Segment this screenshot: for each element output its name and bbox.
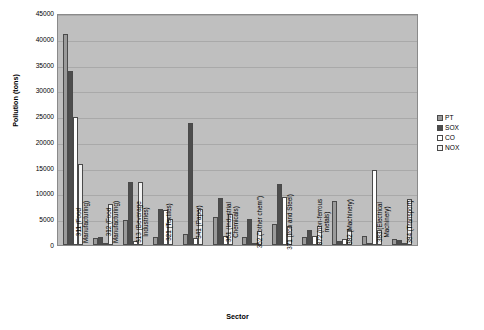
- bar-pt[interactable]: [332, 201, 337, 245]
- x-axis-tick-label: 383 (Electrical Machinery): [358, 248, 388, 306]
- y-axis-tick-0: 0: [22, 243, 54, 250]
- bar-sox[interactable]: [247, 219, 252, 245]
- legend-swatch-icon: [437, 125, 443, 131]
- legend-label: NOX: [445, 145, 459, 152]
- x-axis-tick-label: 372 (non-ferrous metals): [298, 248, 328, 306]
- legend-item-co[interactable]: CO: [437, 133, 459, 143]
- x-axis-tick-label: 382 (Machinery): [328, 248, 358, 306]
- x-axis-tick-label: 313 (Beverage Industries): [117, 248, 147, 306]
- y-axis-tick-20000: 20000: [22, 140, 54, 147]
- chart-legend: PTSOXCONOX: [436, 112, 461, 154]
- legend-item-nox[interactable]: NOX: [437, 143, 459, 153]
- x-axis-tick-label: 371 (Iron and Steel): [268, 248, 298, 306]
- legend-label: SOX: [445, 125, 459, 132]
- legend-swatch-icon: [437, 145, 443, 151]
- x-axis-tick-label: 351 (Industrial Chemicals): [207, 248, 237, 306]
- legend-swatch-icon: [437, 115, 443, 121]
- x-axis-tick-label: 311 (Food Manufacturing): [57, 248, 87, 306]
- y-axis-tick-labels: 0500010000150002000025000300003500040000…: [22, 14, 54, 246]
- y-axis-title: Pollution (tons): [11, 46, 20, 156]
- x-axis-tick-label: 341 (Paper): [177, 248, 207, 306]
- y-axis-tick-10000: 10000: [22, 191, 54, 198]
- y-axis-tick-40000: 40000: [22, 36, 54, 43]
- x-axis-tick-label: 321 (Textiles): [147, 248, 177, 306]
- y-axis-tick-25000: 25000: [22, 114, 54, 121]
- x-axis-tick-labels: 311 (Food Manufacturing)312 (Food Manufa…: [57, 248, 418, 306]
- bar-group: [178, 15, 208, 245]
- y-axis-tick-45000: 45000: [22, 11, 54, 18]
- legend-label: PT: [445, 115, 453, 122]
- legend-item-pt[interactable]: PT: [437, 113, 459, 123]
- bar-chart: Pollution (tons) 05000100001500020000250…: [0, 0, 484, 330]
- legend-label: CO: [445, 135, 455, 142]
- x-axis-title: Sector: [57, 312, 418, 321]
- x-axis-tick-label: 352 ("other chem"): [237, 248, 267, 306]
- y-axis-tick-15000: 15000: [22, 165, 54, 172]
- y-axis-tick-35000: 35000: [22, 62, 54, 69]
- y-axis-tick-30000: 30000: [22, 88, 54, 95]
- x-axis-tick-label: 312 (Food Manufacturing): [87, 248, 117, 306]
- legend-swatch-icon: [437, 135, 443, 141]
- legend-item-sox[interactable]: SOX: [437, 123, 459, 133]
- x-axis-tick-label: 384 (Transport): [388, 248, 418, 306]
- y-axis-tick-5000: 5000: [22, 217, 54, 224]
- bar-sox[interactable]: [188, 123, 193, 245]
- bar-sox[interactable]: [128, 182, 133, 245]
- bar-group: [148, 15, 178, 245]
